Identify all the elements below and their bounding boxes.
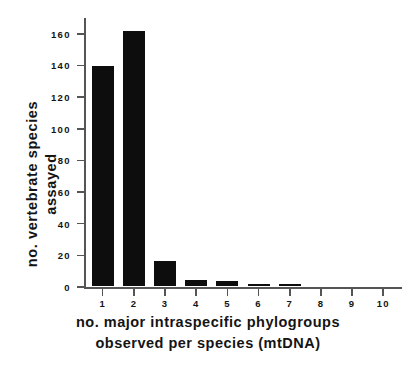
y-tick-label-0: 0	[64, 281, 71, 292]
y-tick-160: 160	[77, 33, 86, 35]
x-tick-label-9: 9	[349, 298, 355, 309]
x-axis-title-line-2: observed per species (mtDNA)	[0, 333, 416, 354]
x-tick-label-2: 2	[131, 298, 137, 309]
y-tick-80: 80	[77, 160, 86, 162]
x-axis-title: no. major intraspecific phylogroups obse…	[0, 312, 416, 354]
y-tick-label-120: 120	[51, 92, 71, 103]
x-tick-3	[164, 289, 166, 296]
y-tick-40: 40	[77, 223, 86, 225]
y-tick-label-160: 160	[51, 28, 71, 39]
chart-figure: no. vertebrate species assayed 020406080…	[0, 0, 416, 366]
x-tick-5	[227, 289, 229, 296]
x-tick-9	[351, 289, 353, 296]
x-axis-line	[84, 287, 402, 289]
y-tick-label-40: 40	[58, 218, 71, 229]
y-tick-label-80: 80	[58, 155, 71, 166]
x-tick-label-1: 1	[99, 298, 105, 309]
y-tick-label-60: 60	[58, 187, 71, 198]
y-tick-0: 0	[77, 286, 86, 288]
x-tick-label-3: 3	[162, 298, 168, 309]
y-tick-label-100: 100	[51, 123, 71, 134]
y-tick-60: 60	[77, 191, 86, 193]
bar-6	[248, 284, 270, 286]
x-tick-label-6: 6	[255, 298, 261, 309]
x-tick-1	[102, 289, 104, 296]
y-tick-label-20: 20	[58, 250, 71, 261]
y-tick-label-140: 140	[51, 60, 71, 71]
bar-1	[92, 66, 114, 286]
x-axis-title-line-1: no. major intraspecific phylogroups	[0, 312, 416, 333]
x-tick-10	[382, 289, 384, 296]
x-tick-label-8: 8	[318, 298, 324, 309]
bar-7	[279, 284, 301, 286]
x-tick-4	[195, 289, 197, 296]
y-tick-100: 100	[77, 128, 86, 130]
x-tick-label-7: 7	[287, 298, 293, 309]
y-axis-title-line-1: no. vertebrate species	[23, 101, 42, 267]
x-tick-label-4: 4	[193, 298, 199, 309]
bar-2	[123, 31, 145, 286]
y-tick-20: 20	[77, 255, 86, 257]
x-tick-6	[258, 289, 260, 296]
bar-4	[185, 280, 207, 286]
plot-area: 020406080100120140160 12345678910	[84, 18, 402, 288]
x-tick-7	[289, 289, 291, 296]
y-tick-120: 120	[77, 96, 86, 98]
x-tick-label-10: 10	[377, 298, 390, 309]
y-tick-140: 140	[77, 65, 86, 67]
x-tick-2	[133, 289, 135, 296]
bar-5	[216, 281, 238, 286]
x-tick-label-5: 5	[224, 298, 230, 309]
y-axis-line	[84, 18, 86, 289]
bar-3	[154, 261, 176, 286]
x-tick-8	[320, 289, 322, 296]
